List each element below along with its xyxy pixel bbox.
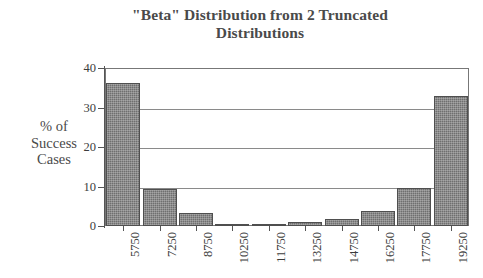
chart-title-line-2: Distributions — [60, 24, 460, 42]
x-axis-tick — [196, 226, 197, 231]
x-axis-tick-label: 17750 — [419, 232, 434, 263]
y-axis-label-line-1: % of — [12, 118, 96, 135]
bar — [325, 219, 359, 226]
bar — [179, 213, 213, 226]
y-axis-tick — [98, 108, 105, 109]
bar — [361, 211, 395, 226]
x-axis-tick-label: 7250 — [165, 232, 180, 257]
y-axis-tick — [98, 68, 105, 69]
x-axis-tick — [378, 226, 379, 231]
x-axis-tick — [305, 226, 306, 231]
chart-container: "Beta" Distribution from 2 Truncated Dis… — [0, 0, 483, 278]
x-axis-tick — [232, 226, 233, 231]
y-axis-tick — [98, 147, 105, 148]
bar-series — [105, 68, 469, 226]
y-axis-tick-label: 40 — [70, 61, 96, 76]
x-axis-tick — [123, 226, 124, 231]
x-axis-tick-label-wrap: 10250 — [237, 232, 252, 263]
bar — [143, 189, 177, 226]
bar — [434, 96, 468, 226]
y-axis-tick — [98, 226, 105, 227]
x-axis-tick-label: 8750 — [201, 232, 216, 257]
x-axis-tick-label: 10250 — [237, 232, 252, 263]
x-axis-tick — [414, 226, 415, 231]
x-axis-tick-label: 16250 — [383, 232, 398, 263]
x-axis-tick-label-wrap: 16250 — [383, 232, 398, 263]
x-axis-tick-label: 19250 — [456, 232, 471, 263]
x-axis-tick-label-wrap: 5750 — [128, 232, 143, 257]
x-axis-tick-label-wrap: 13250 — [310, 232, 325, 263]
y-axis-tick-label: 30 — [70, 100, 96, 115]
x-axis-tick — [342, 226, 343, 231]
x-axis-tick — [269, 226, 270, 231]
y-axis-tick-label: 0 — [70, 219, 96, 234]
chart-title-line-1: "Beta" Distribution from 2 Truncated — [132, 6, 388, 23]
x-axis-tick-label-wrap: 17750 — [419, 232, 434, 263]
x-axis-tick-label-wrap: 19250 — [456, 232, 471, 263]
x-axis: 5750725087501025011750132501475016250177… — [105, 232, 469, 276]
x-axis-tick-label-wrap: 14750 — [347, 232, 362, 263]
x-axis-tick — [160, 226, 161, 231]
x-axis-tick-label: 5750 — [128, 232, 143, 257]
x-axis-tick-label: 11750 — [274, 232, 289, 263]
x-axis-tick-label-wrap: 7250 — [165, 232, 180, 257]
x-axis-tick-label: 13250 — [310, 232, 325, 263]
bar — [106, 83, 140, 226]
x-axis-tick — [451, 226, 452, 231]
y-axis-tick-label: 10 — [70, 179, 96, 194]
bar — [397, 188, 431, 226]
y-axis-tick-label: 20 — [70, 140, 96, 155]
x-axis-tick-label-wrap: 8750 — [201, 232, 216, 257]
chart-title: "Beta" Distribution from 2 Truncated Dis… — [60, 6, 460, 42]
y-axis-tick — [98, 187, 105, 188]
x-axis-tick-label-wrap: 11750 — [274, 232, 289, 263]
x-axis-tick-label: 14750 — [347, 232, 362, 263]
